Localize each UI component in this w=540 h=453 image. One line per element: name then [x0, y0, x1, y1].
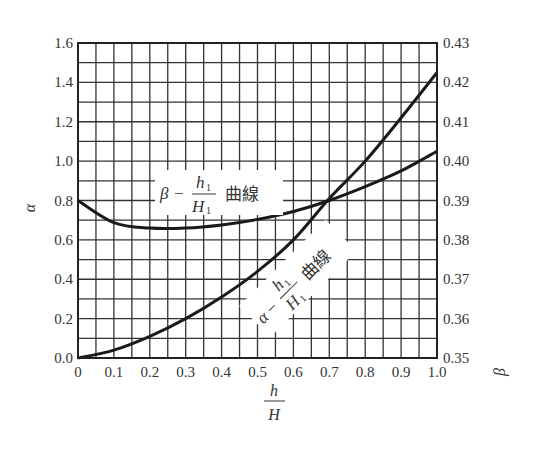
x-axis-label: h H: [264, 382, 285, 423]
y-axis-left-label: α: [21, 203, 38, 212]
y-right-tick-label: 0.41: [443, 114, 469, 130]
beta-curve-label: β − h 1 H 1 曲線: [155, 170, 283, 216]
beta-label-den: H: [191, 197, 206, 216]
beta-label-num: h: [196, 173, 205, 192]
y-left-tick-label: 0.2: [54, 311, 73, 327]
x-tick-label: 0.6: [284, 364, 303, 380]
y-left-tick-label: 1.4: [54, 74, 73, 90]
x-tick-label: 0.3: [176, 364, 195, 380]
x-tick-label: 0.7: [320, 364, 339, 380]
y-left-tick-label: 1.2: [54, 114, 73, 130]
x-tick-label: 1.0: [428, 364, 447, 380]
y-left-tick-label: 0.6: [54, 232, 73, 248]
y-right-tick-label: 0.42: [443, 74, 469, 90]
y-left-tick-label: 0.4: [54, 271, 73, 287]
x-tick-label: 0: [74, 364, 82, 380]
x-tick-label: 0.9: [392, 364, 411, 380]
x-axis-label-numerator: h: [270, 382, 278, 399]
x-axis-label-denominator: H: [267, 406, 281, 423]
beta-label-den-sub: 1: [206, 205, 211, 216]
x-tick-label: 0.8: [356, 364, 375, 380]
y-right-tick-label: 0.40: [443, 153, 469, 169]
y-right-tick-label: 0.36: [443, 311, 470, 327]
beta-label-suffix: 曲線: [225, 185, 259, 204]
x-tick-label: 0.5: [248, 364, 267, 380]
beta-label-symbol: β: [159, 184, 169, 203]
x-tick-label: 0.1: [105, 364, 124, 380]
y-axis-right-label: β: [491, 368, 509, 377]
y-right-tick-label: 0.43: [443, 35, 469, 51]
y-right-tick-label: 0.38: [443, 232, 469, 248]
beta-label-dash: −: [174, 184, 184, 203]
x-tick-label: 0.2: [140, 364, 159, 380]
chart: β − h 1 H 1 曲線 α − h 1 H 1 曲線 00.10.20.3…: [0, 0, 540, 453]
y-left-tick-label: 0.0: [54, 350, 73, 366]
y-right-tick-label: 0.37: [443, 271, 470, 287]
y-right-tick-label: 0.39: [443, 193, 469, 209]
beta-label-num-sub: 1: [206, 182, 211, 193]
y-left-tick-label: 1.6: [54, 35, 73, 51]
x-tick-label: 0.4: [212, 364, 231, 380]
y-left-tick-label: 0.8: [54, 193, 73, 209]
y-right-tick-label: 0.35: [443, 350, 469, 366]
y-left-tick-label: 1.0: [54, 153, 73, 169]
